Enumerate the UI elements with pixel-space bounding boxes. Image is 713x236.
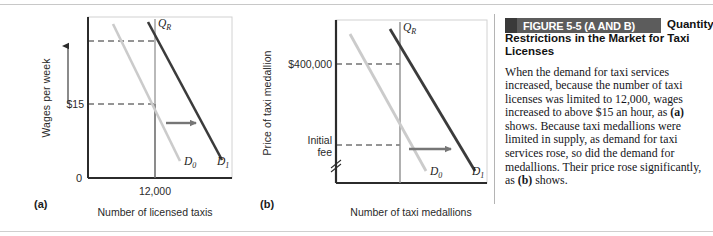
panel-tag-b: (b) (260, 198, 274, 210)
origin-label-a: 0 (76, 172, 82, 184)
x-axis-title-b: Number of taxi medallions (350, 206, 471, 218)
x-tick-label-a: 12,000 (139, 185, 171, 197)
chart-a-svg: QR D0 D1 $15 0 12,000 Wages per week (0, 8, 248, 208)
figure-caption-body: When the demand for taxi services increa… (505, 66, 707, 188)
top-divider-rule (0, 4, 713, 5)
chart-panel-b: QR D0 D1 $400,000 Initial fee Price of t… (248, 8, 495, 208)
figure-graphs-area: QR D0 D1 $15 0 12,000 Wages per week Num… (0, 8, 495, 230)
panel-tag-a: (a) (34, 198, 47, 210)
y-tick-label-price-b: $400,000 (288, 58, 332, 70)
band-square-marker (505, 18, 517, 33)
caption-divider (494, 14, 495, 204)
chart-panel-a: QR D0 D1 $15 0 12,000 Wages per week Num… (0, 8, 248, 208)
figure-number-label: FIGURE 5-5 (A AND B) (523, 20, 635, 32)
chart-b-xtitle-svg: Number of taxi medallions (248, 204, 495, 226)
y-tick-label-fee-b: fee (317, 146, 332, 158)
y-axis-title-b: Price of taxi medallion (261, 50, 273, 155)
chart-b-svg: QR D0 D1 $400,000 Initial fee Price of t… (248, 8, 495, 208)
y-axis-title-a: Wages per week (40, 58, 52, 138)
y-tick-label-a: $15 (66, 98, 84, 110)
x-axis-title-a: Number of licensed taxis (98, 206, 213, 218)
figure-caption: FIGURE 5-5 (A AND B) Quantity Restrictio… (505, 18, 707, 218)
y-tick-label-initial-b: Initial (307, 134, 332, 146)
plot-frame-b (336, 20, 487, 183)
bottom-divider-rule (0, 231, 713, 232)
